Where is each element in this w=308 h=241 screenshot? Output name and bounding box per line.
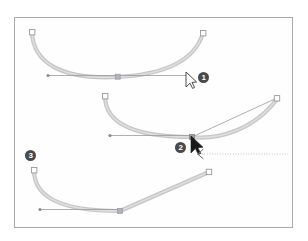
step-badge-2: 2 (175, 142, 186, 153)
step-badge-1: 1 (198, 72, 209, 83)
screenshot-root: 1 2 3 (0, 0, 308, 241)
step-badge-3: 3 (25, 150, 36, 161)
figure-frame (14, 17, 293, 228)
